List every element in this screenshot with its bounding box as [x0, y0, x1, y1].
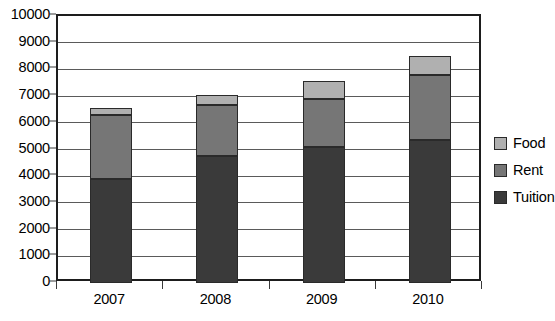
y-axis: 0100020003000400050006000700080009000100…: [0, 0, 50, 321]
y-axis-tick-label: 5000: [2, 140, 50, 155]
bar-segment-rent[interactable]: [409, 75, 451, 140]
legend-swatch-rent: [494, 164, 507, 177]
bar-segment-rent[interactable]: [90, 115, 132, 179]
legend-label-tuition: Tuition: [513, 190, 555, 205]
y-axis-tick-label: 6000: [2, 114, 50, 129]
stacked-bar-chart: 0100020003000400050006000700080009000100…: [0, 0, 555, 321]
legend-label-food: Food: [513, 136, 545, 151]
bar-stack[interactable]: [303, 16, 345, 283]
y-axis-tick-label: 2000: [2, 220, 50, 235]
plot-area: [56, 14, 481, 281]
bar-segment-rent[interactable]: [303, 99, 345, 147]
chart-legend: Food Rent Tuition: [494, 130, 554, 211]
y-axis-tick-label: 8000: [2, 60, 50, 75]
legend-item-food: Food: [494, 130, 554, 157]
y-axis-tick-label: 10000: [2, 7, 50, 22]
y-axis-tick-label: 4000: [2, 167, 50, 182]
y-axis-tick-mark: [49, 227, 56, 228]
x-axis-tick-label: 2009: [306, 292, 337, 307]
y-axis-tick-label: 1000: [2, 247, 50, 262]
bar-stack[interactable]: [90, 16, 132, 283]
legend-swatch-food: [494, 137, 507, 150]
x-axis-tick-label: 2010: [412, 292, 443, 307]
y-axis-tick-mark: [49, 147, 56, 148]
bar-stack[interactable]: [196, 16, 238, 283]
x-axis-tick-mark: [162, 281, 163, 289]
y-axis-tick-mark: [49, 67, 56, 68]
x-axis-tick-mark: [56, 281, 57, 289]
bar-segment-tuition[interactable]: [303, 147, 345, 283]
x-axis-tick-label: 2007: [93, 292, 124, 307]
bar-stack[interactable]: [409, 16, 451, 283]
y-axis-tick-mark: [49, 120, 56, 121]
bar-segment-food[interactable]: [409, 56, 451, 75]
x-axis-tick-label: 2008: [200, 292, 231, 307]
legend-item-rent: Rent: [494, 157, 554, 184]
y-axis-tick-mark: [49, 200, 56, 201]
bar-segment-tuition[interactable]: [196, 156, 238, 283]
legend-label-rent: Rent: [513, 163, 543, 178]
y-axis-tick-label: 3000: [2, 194, 50, 209]
y-axis-tick-label: 9000: [2, 33, 50, 48]
y-axis-tick-label: 0: [2, 274, 50, 289]
y-axis-tick-mark: [49, 254, 56, 255]
bar-segment-food[interactable]: [196, 95, 238, 106]
y-axis-tick-mark: [49, 174, 56, 175]
bar-segment-food[interactable]: [303, 81, 345, 98]
legend-swatch-tuition: [494, 191, 507, 204]
legend-item-tuition: Tuition: [494, 184, 554, 211]
y-axis-tick-mark: [49, 40, 56, 41]
y-axis-tick-mark: [49, 281, 56, 282]
x-axis-tick-mark: [269, 281, 270, 289]
bar-segment-tuition[interactable]: [409, 140, 451, 283]
x-axis-tick-mark: [375, 281, 376, 289]
x-axis-tick-mark: [481, 281, 482, 289]
y-axis-tick-mark: [49, 14, 56, 15]
y-axis-tick-mark: [49, 94, 56, 95]
bar-segment-tuition[interactable]: [90, 179, 132, 283]
bar-segment-food[interactable]: [90, 108, 132, 115]
bar-segment-rent[interactable]: [196, 105, 238, 156]
y-axis-tick-label: 7000: [2, 87, 50, 102]
